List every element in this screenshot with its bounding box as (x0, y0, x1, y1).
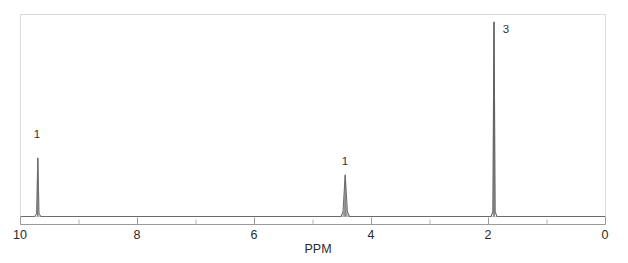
nmr-spectrum-canvas: 10 8 6 4 2 0 PPM 1 1 3 (0, 0, 628, 263)
peak-integral-label-2: 1 (342, 155, 348, 167)
x-tick-label-8: 8 (134, 228, 141, 242)
x-tick-label-4: 4 (368, 228, 375, 242)
x-tick-label-6: 6 (251, 228, 258, 242)
nmr-spectrum-figure: 10 8 6 4 2 0 PPM 1 1 3 (0, 0, 628, 263)
x-tick-label-10: 10 (13, 228, 27, 242)
peak-integral-label-1: 1 (34, 128, 40, 140)
x-axis-minor-ticks (79, 220, 547, 225)
x-tick-label-0: 0 (602, 228, 609, 242)
x-tick-label-2: 2 (485, 228, 492, 242)
plot-frame (21, 15, 606, 217)
x-axis-title: PPM (304, 242, 331, 256)
peak-integral-label-3: 3 (503, 23, 509, 35)
